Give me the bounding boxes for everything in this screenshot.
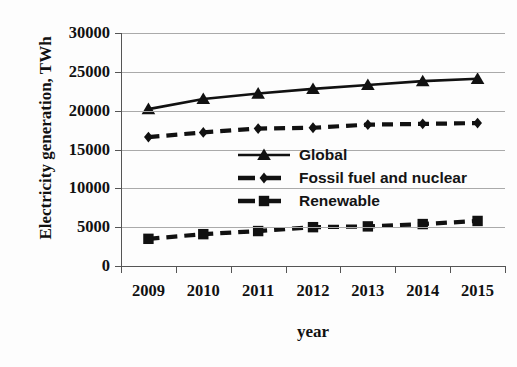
legend-marker-diamond-icon: [236, 170, 292, 186]
x-axis-tick-label: 2014: [393, 281, 453, 301]
x-axis-tick-mark: [395, 266, 396, 273]
legend-label: Renewable: [299, 192, 380, 210]
legend-item-fossil-fuel-and-nuclear[interactable]: Fossil fuel and nuclear: [236, 166, 467, 189]
y-axis-tick-label: 30000: [40, 23, 110, 43]
y-axis-tick-label: 15000: [40, 140, 110, 160]
y-axis-tick-label: 20000: [40, 101, 110, 121]
data-point-marker: [144, 132, 153, 143]
data-point-marker: [473, 118, 482, 129]
data-point-marker: [198, 229, 208, 239]
series-renewable: [143, 216, 483, 244]
data-point-marker: [259, 195, 269, 205]
legend-marker-triangle-icon: [236, 147, 292, 163]
chart-figure: Electricity generation, TWh 050001000015…: [0, 0, 517, 367]
x-axis-tick-label: 2010: [173, 281, 233, 301]
legend-label: Global: [299, 146, 347, 164]
y-axis-tick-mark: [115, 227, 122, 228]
x-axis-title: year: [121, 322, 505, 342]
gridline: [121, 227, 505, 228]
x-axis-tick-label: 2012: [283, 281, 343, 301]
y-axis-tick-mark: [115, 33, 122, 34]
gridline: [121, 72, 505, 73]
gridline: [121, 111, 505, 112]
x-axis-tick-mark: [176, 266, 177, 273]
y-axis-tick-label: 10000: [40, 178, 110, 198]
legend-label: Fossil fuel and nuclear: [299, 169, 467, 187]
data-point-marker: [418, 118, 427, 129]
data-point-marker: [143, 234, 153, 244]
x-axis-tick-mark: [340, 266, 341, 273]
x-axis-tick-label: 2015: [448, 281, 508, 301]
y-axis-tick-mark: [115, 111, 122, 112]
series-fossil-fuel-and-nuclear: [144, 118, 482, 143]
y-axis-tick-mark: [115, 150, 122, 151]
x-axis-tick-label: 2011: [228, 281, 288, 301]
x-axis-tick-label: 2013: [338, 281, 398, 301]
gridline: [121, 33, 505, 34]
legend-marker-square-icon: [236, 193, 292, 209]
y-axis-tick-label: 25000: [40, 62, 110, 82]
x-axis-tick-mark: [505, 266, 506, 273]
x-axis-tick-mark: [231, 266, 232, 273]
x-axis-line: [121, 266, 506, 267]
data-point-marker: [254, 123, 263, 134]
data-point-marker: [309, 122, 318, 133]
data-point-marker: [260, 172, 269, 183]
data-point-marker: [363, 119, 372, 130]
x-axis-tick-mark: [121, 266, 122, 273]
data-point-marker: [472, 216, 482, 226]
y-axis-tick-label: 0: [40, 256, 110, 276]
x-axis-tick-label: 2009: [118, 281, 178, 301]
y-axis-tick-labels: 050001000015000200002500030000: [38, 0, 110, 367]
data-point-marker: [199, 127, 208, 138]
y-axis-tick-mark: [115, 188, 122, 189]
x-axis-tick-mark: [450, 266, 451, 273]
chart-legend: GlobalFossil fuel and nuclearRenewable: [236, 143, 467, 212]
x-axis-tick-mark: [286, 266, 287, 273]
legend-item-renewable[interactable]: Renewable: [236, 189, 467, 212]
series-global: [142, 72, 485, 114]
y-axis-tick-mark: [115, 72, 122, 73]
y-axis-tick-label: 5000: [40, 217, 110, 237]
legend-item-global[interactable]: Global: [236, 143, 467, 166]
